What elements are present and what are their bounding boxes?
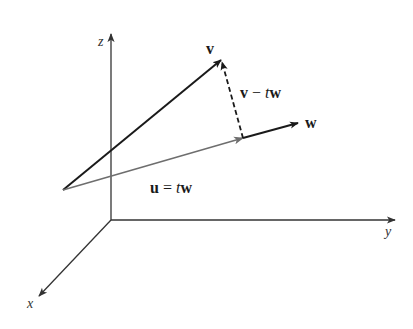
vector-projection-diagram: z y x v w v − tw u = tw (0, 0, 413, 329)
vector-w (243, 123, 298, 138)
y-axis-label: y (385, 225, 391, 239)
label-part: = (159, 179, 176, 196)
label-part: u (150, 179, 159, 196)
z-axis-label: z (98, 35, 103, 49)
vector-w-label: w (305, 115, 317, 131)
vector-v-minus-tw-label: v − tw (240, 85, 281, 101)
vector-v-label: v (206, 41, 214, 57)
label-part: v (240, 84, 248, 101)
vector-u-label: u = tw (150, 180, 192, 196)
vector-v (63, 60, 221, 190)
label-part: − (248, 84, 265, 101)
label-part: w (180, 179, 192, 196)
x-axis (39, 220, 111, 296)
x-axis-label: x (27, 297, 33, 311)
label-part: w (269, 84, 281, 101)
